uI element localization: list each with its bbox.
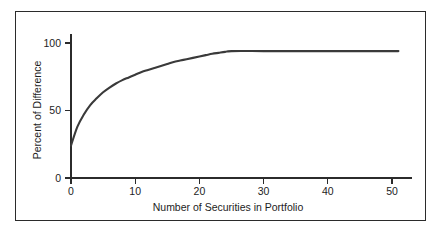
y-axis-title: Percent of Difference xyxy=(31,61,43,160)
x-tick-label-0: 0 xyxy=(68,185,74,197)
x-tick-label-30: 30 xyxy=(258,185,270,197)
y-tick-label-50: 50 xyxy=(49,104,61,116)
x-tick-label-50: 50 xyxy=(386,185,398,197)
chart-figure: 0 50 100 0 10 20 30 40 50 Number of Secu… xyxy=(0,0,446,241)
y-axis-tick-labels: 0 50 100 xyxy=(43,37,61,184)
y-tick-label-100: 100 xyxy=(43,37,61,49)
data-series-line xyxy=(71,51,398,146)
x-tick-label-20: 20 xyxy=(194,185,206,197)
x-axis-title: Number of Securities in Portfolio xyxy=(153,201,304,213)
y-tick-label-0: 0 xyxy=(55,172,61,184)
x-tick-label-10: 10 xyxy=(129,185,141,197)
x-tick-label-40: 40 xyxy=(322,185,334,197)
plot-canvas: 0 50 100 0 10 20 30 40 50 Number of Secu… xyxy=(0,0,446,241)
y-axis-ticks xyxy=(65,43,71,178)
x-axis-tick-labels: 0 10 20 30 40 50 xyxy=(68,185,398,197)
x-axis-ticks xyxy=(71,178,392,184)
